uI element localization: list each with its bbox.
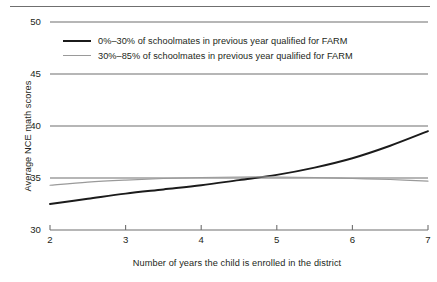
y-tick-label: 45: [17, 68, 41, 79]
chart-figure: Average NCE math scores Number of years …: [0, 0, 437, 282]
y-tick-label: 40: [17, 120, 41, 131]
legend-item-dark: 0%–30% of schoolmates in previous year q…: [63, 33, 353, 48]
y-axis-title: Average NCE math scores: [23, 61, 33, 211]
x-axis-group: [50, 225, 428, 230]
x-tick-label: 3: [116, 234, 136, 245]
x-tick-label: 6: [342, 234, 362, 245]
legend-swatch-light-icon: [63, 55, 91, 56]
x-tick-label: 5: [267, 234, 287, 245]
legend-label-light: 30%–85% of schoolmates in previous year …: [98, 51, 353, 61]
x-tick-label: 7: [418, 234, 437, 245]
series-group: [50, 131, 428, 204]
x-tick-label: 4: [191, 234, 211, 245]
chart-legend: 0%–30% of schoolmates in previous year q…: [63, 33, 353, 63]
x-axis-title: Number of years the child is enrolled in…: [44, 258, 430, 268]
y-tick-label: 35: [17, 172, 41, 183]
x-tick-label: 2: [40, 234, 60, 245]
legend-label-dark: 0%–30% of schoolmates in previous year q…: [98, 36, 348, 46]
y-tick-label: 30: [17, 224, 41, 235]
y-tick-label: 50: [17, 16, 41, 27]
legend-item-light: 30%–85% of schoolmates in previous year …: [63, 48, 353, 63]
legend-swatch-dark-icon: [63, 40, 91, 42]
